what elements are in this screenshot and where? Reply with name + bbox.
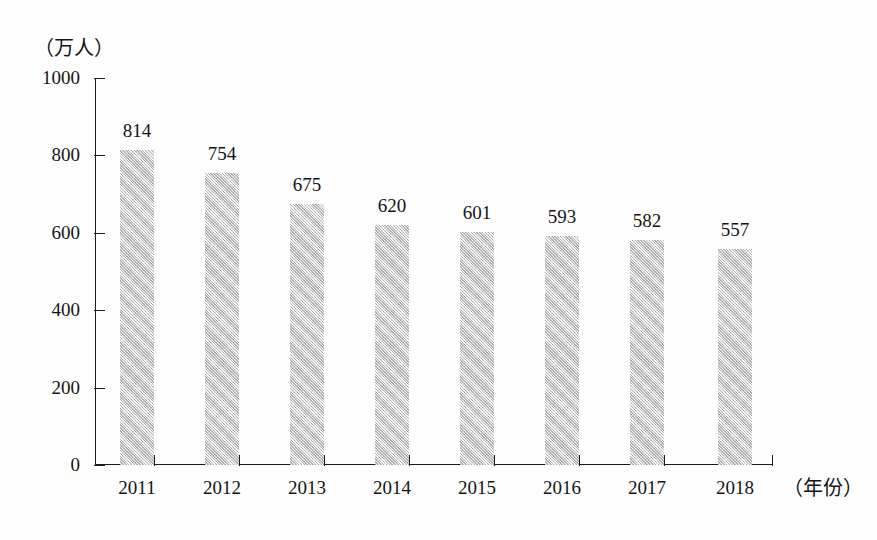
x-tick-sep-2 bbox=[239, 455, 240, 466]
x-label-2013: 2013 bbox=[288, 477, 326, 499]
x-tick-sep-6 bbox=[579, 455, 580, 466]
plot-area: 1000 800 600 400 200 0 814 754 bbox=[95, 78, 773, 465]
bar-value-2013: 675 bbox=[293, 175, 322, 195]
x-label-2018: 2018 bbox=[716, 477, 754, 499]
x-tick-sep-7 bbox=[664, 455, 665, 466]
y-tick-label-600: 600 bbox=[52, 223, 81, 243]
bar-2012[interactable]: 754 bbox=[205, 173, 239, 465]
x-axis-line bbox=[95, 464, 773, 465]
x-label-2017: 2017 bbox=[628, 477, 666, 499]
bar-2013[interactable]: 675 bbox=[290, 204, 324, 465]
y-tick-label-200: 200 bbox=[52, 378, 81, 398]
x-label-2012: 2012 bbox=[203, 477, 241, 499]
x-axis-unit-caption: （年份） bbox=[783, 477, 863, 499]
y-tick-label-400: 400 bbox=[52, 300, 81, 320]
x-label-2015: 2015 bbox=[458, 477, 496, 499]
x-label-2011: 2011 bbox=[118, 477, 155, 499]
bar-value-2018: 557 bbox=[721, 220, 750, 240]
bar-value-2017: 582 bbox=[633, 211, 662, 231]
y-tick-label-800: 800 bbox=[52, 145, 81, 165]
bar-2014[interactable]: 620 bbox=[375, 225, 409, 465]
bar-value-2015: 601 bbox=[463, 203, 492, 223]
y-tick-label-1000: 1000 bbox=[42, 68, 80, 88]
bar-value-2016: 593 bbox=[548, 207, 577, 227]
bar-2018[interactable]: 557 bbox=[718, 249, 752, 465]
bar-2017[interactable]: 582 bbox=[630, 240, 664, 465]
bar-value-2012: 754 bbox=[208, 144, 237, 164]
y-axis-line bbox=[95, 78, 96, 465]
y-tick-label-0: 0 bbox=[71, 455, 81, 475]
bar-value-2014: 620 bbox=[378, 196, 407, 216]
x-label-2014: 2014 bbox=[373, 477, 411, 499]
y-tick-1000: 1000 bbox=[94, 78, 105, 79]
x-tick-sep-1 bbox=[154, 455, 155, 466]
y-tick-400: 400 bbox=[94, 310, 105, 311]
bar-value-2011: 814 bbox=[123, 121, 152, 141]
x-tick-sep-3 bbox=[324, 455, 325, 466]
bar-chart-figure: （万人） 1000 800 600 400 200 0 bbox=[0, 0, 877, 540]
y-tick-200: 200 bbox=[94, 388, 105, 389]
y-tick-800: 800 bbox=[94, 155, 105, 156]
y-axis-unit-caption: （万人） bbox=[34, 32, 114, 61]
bar-2015[interactable]: 601 bbox=[460, 232, 494, 465]
bar-2011[interactable]: 814 bbox=[120, 150, 154, 465]
bar-2016[interactable]: 593 bbox=[545, 236, 579, 465]
x-tick-axis-end bbox=[772, 455, 773, 466]
y-tick-600: 600 bbox=[94, 233, 105, 234]
x-tick-sep-4 bbox=[409, 455, 410, 466]
x-label-2016: 2016 bbox=[543, 477, 581, 499]
y-tick-0: 0 bbox=[94, 465, 105, 466]
x-tick-sep-5 bbox=[494, 455, 495, 466]
